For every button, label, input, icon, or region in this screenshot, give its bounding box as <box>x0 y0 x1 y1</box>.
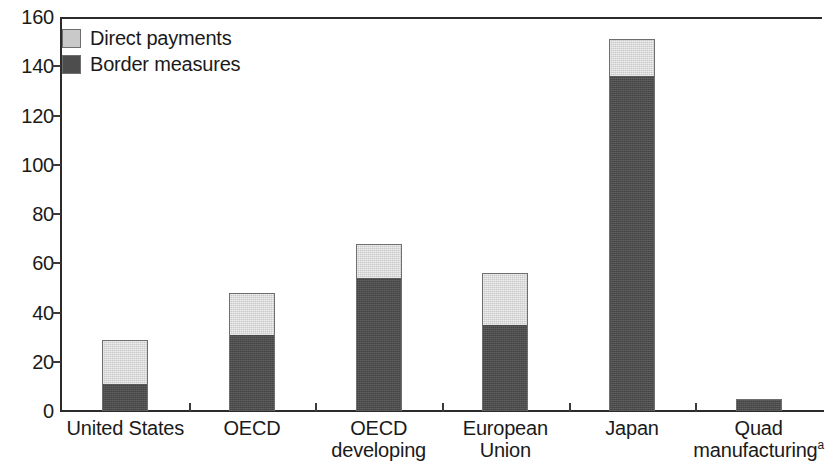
bar-group <box>609 39 655 411</box>
bar-group <box>482 273 528 411</box>
y-axis-tick-label: 60 <box>0 253 54 273</box>
x-axis-label-line2-text: Union <box>480 439 531 461</box>
y-axis-tick-label: 120 <box>0 106 54 126</box>
x-axis-tick-mark <box>569 403 571 412</box>
x-axis-tick-mark <box>189 403 191 412</box>
legend-swatch-icon <box>62 55 81 74</box>
bar-segment-border-measures <box>736 399 782 411</box>
y-axis-tick-label: 20 <box>0 352 54 372</box>
bar-group <box>229 293 275 411</box>
y-axis-tick-label: 160 <box>0 7 54 27</box>
bar-segment-border-measures <box>356 278 402 411</box>
y-axis-tick-label: 40 <box>0 303 54 323</box>
legend-label: Direct payments <box>90 28 232 48</box>
y-axis-tick-mark <box>52 361 61 363</box>
bar-segment-direct-payments <box>102 340 148 384</box>
y-axis-tick-mark <box>52 312 61 314</box>
bar-segment-direct-payments <box>229 293 275 335</box>
y-axis-tick-mark <box>52 164 61 166</box>
legend-item: Border measures <box>62 51 240 77</box>
x-axis-label-line2: manufacturinga <box>664 439 827 461</box>
bar-group <box>356 244 402 411</box>
bar-segment-border-measures <box>229 335 275 411</box>
footnote-marker: a <box>817 438 823 452</box>
bar-group <box>736 399 782 411</box>
bar-segment-border-measures <box>102 384 148 411</box>
chart-legend: Direct paymentsBorder measures <box>62 25 240 77</box>
bar-segment-direct-payments <box>356 244 402 278</box>
bar-group <box>102 340 148 411</box>
legend-item: Direct payments <box>62 25 240 51</box>
x-axis-label-line2-text: manufacturing <box>693 439 817 461</box>
x-axis-tick-mark <box>695 403 697 412</box>
x-axis-tick-mark <box>315 403 317 412</box>
bar-segment-border-measures <box>609 76 655 411</box>
y-axis-tick-label: 140 <box>0 56 54 76</box>
x-axis-label-line1: Quad <box>664 417 827 439</box>
y-axis-tick-mark <box>52 262 61 264</box>
y-axis-tick-label: 80 <box>0 204 54 224</box>
bar-segment-border-measures <box>482 325 528 411</box>
y-axis-tick-mark <box>52 213 61 215</box>
x-axis-label-line2: Union <box>410 439 600 461</box>
bar-segment-direct-payments <box>482 273 528 325</box>
bar-segment-direct-payments <box>609 39 655 76</box>
y-axis-tick-mark <box>52 115 61 117</box>
y-axis-tick-label: 100 <box>0 155 54 175</box>
y-axis-tick-mark <box>52 65 61 67</box>
legend-swatch-icon <box>62 29 81 48</box>
x-axis-category-label: Quadmanufacturinga <box>664 417 827 461</box>
x-axis-tick-mark <box>442 403 444 412</box>
bar-chart: 160140120100806040200 United StatesOECDO… <box>0 0 827 461</box>
legend-label: Border measures <box>90 54 240 74</box>
